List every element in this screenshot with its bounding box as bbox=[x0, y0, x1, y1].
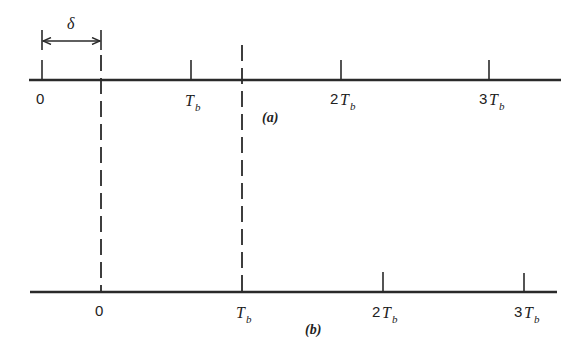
timing-offset-diagram: 0 T b 2 T b 3 T b (a) δ 0 T bbox=[0, 0, 582, 355]
axis-a-label-1: T b bbox=[185, 92, 201, 113]
svg-text:3: 3 bbox=[479, 90, 487, 107]
svg-text:T: T bbox=[524, 304, 534, 321]
axis-b-label-2: 2 T b bbox=[372, 303, 398, 325]
svg-text:T: T bbox=[340, 91, 350, 108]
axis-b-caption: (b) bbox=[305, 322, 321, 338]
svg-text:b: b bbox=[534, 313, 540, 325]
axis-b-label-3: 3 T b bbox=[514, 303, 540, 325]
svg-text:b: b bbox=[499, 100, 505, 112]
delta-label: δ bbox=[67, 15, 75, 32]
axis-a-caption: (a) bbox=[262, 110, 278, 126]
axis-b-label-1: T b bbox=[236, 304, 252, 325]
axis-b-label-0: 0 bbox=[95, 302, 103, 319]
axis-a-label-3: 3 T b bbox=[479, 90, 505, 112]
svg-text:2: 2 bbox=[372, 303, 380, 320]
axis-a: 0 T b 2 T b 3 T b (a) bbox=[29, 60, 561, 126]
svg-text:b: b bbox=[392, 313, 398, 325]
svg-text:T: T bbox=[236, 304, 246, 321]
axis-a-label-2: 2 T b bbox=[330, 90, 356, 112]
svg-text:T: T bbox=[489, 91, 499, 108]
svg-text:2: 2 bbox=[330, 90, 338, 107]
svg-text:b: b bbox=[246, 313, 252, 325]
svg-text:b: b bbox=[350, 100, 356, 112]
svg-text:b: b bbox=[195, 101, 201, 113]
axis-b: 0 T b 2 T b 3 T b (b) bbox=[30, 272, 557, 338]
svg-text:T: T bbox=[382, 304, 392, 321]
delta-offset-marker: δ bbox=[42, 15, 101, 50]
axis-a-label-0: 0 bbox=[36, 90, 44, 107]
svg-text:T: T bbox=[185, 92, 195, 109]
svg-text:3: 3 bbox=[514, 303, 522, 320]
